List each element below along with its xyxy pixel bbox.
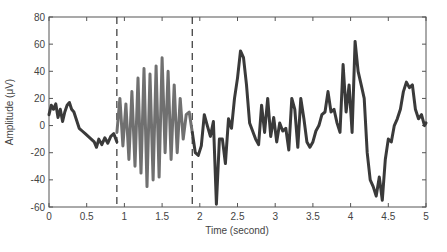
x-tick-label: 5 [423, 211, 429, 222]
series-post-stimulus [192, 41, 426, 204]
x-tick-label: 3 [272, 211, 278, 222]
x-tick-label: 4.5 [381, 211, 395, 222]
axis-ticks: 00.511.522.533.544.55-60-40-20020406080 [31, 12, 430, 223]
y-tick-label: -40 [31, 174, 46, 185]
y-tick-label: -60 [31, 202, 46, 213]
x-tick-label: 0.5 [80, 211, 94, 222]
x-axis-label: Time (second) [205, 225, 269, 236]
y-tick-label: 20 [34, 93, 46, 104]
y-tick-label: 60 [34, 39, 46, 50]
waveform [49, 41, 426, 204]
series-oscillation [117, 58, 192, 187]
y-tick-label: 40 [34, 66, 46, 77]
x-tick-label: 3.5 [306, 211, 320, 222]
y-axis-label: Amplitude (μV) [4, 79, 15, 145]
series-pre-stimulus [49, 103, 117, 148]
x-tick-label: 4 [348, 211, 354, 222]
y-tick-label: 80 [34, 12, 46, 23]
y-tick-label: 0 [39, 120, 45, 131]
x-tick-label: 2 [197, 211, 203, 222]
x-tick-label: 1 [122, 211, 128, 222]
x-tick-label: 2.5 [231, 211, 245, 222]
x-tick-label: 1.5 [155, 211, 169, 222]
y-tick-label: -20 [31, 147, 46, 158]
eeg-amplitude-chart: 00.511.522.533.544.55-60-40-20020406080 … [0, 0, 447, 252]
x-tick-label: 0 [46, 211, 52, 222]
